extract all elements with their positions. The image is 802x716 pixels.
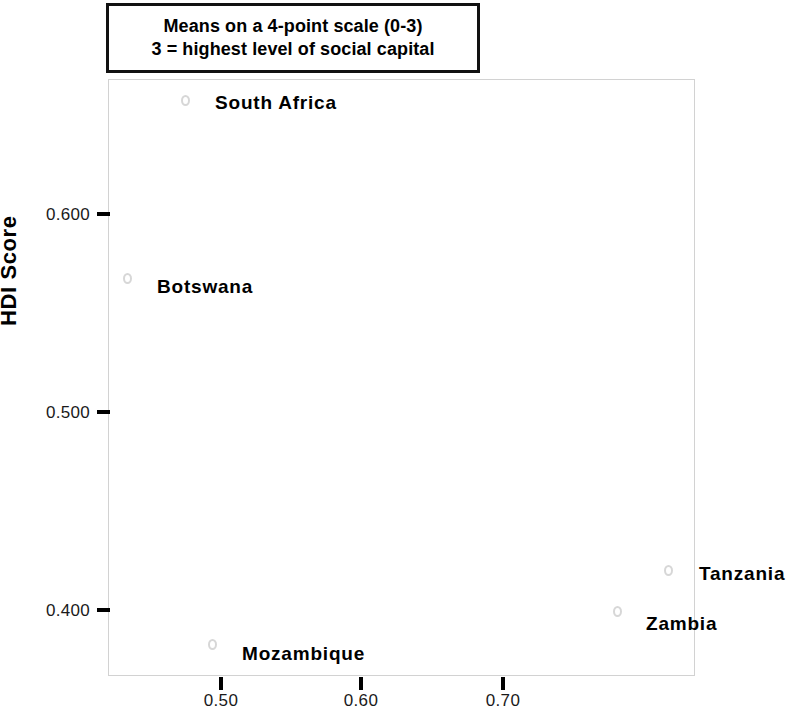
scatter-plot-figure: Means on a 4-point scale (0-3) 3 = highe…: [0, 0, 802, 716]
x-tick-label-2: 0.70: [473, 691, 533, 711]
data-label-south-africa: South Africa: [215, 92, 337, 114]
y-tick-mark-0: [97, 212, 110, 216]
caption-line-2: 3 = highest level of social capital: [151, 38, 434, 61]
y-tick-label-1: 0.500: [46, 403, 90, 423]
y-tick-mark-1: [97, 410, 110, 414]
data-point-zambia[interactable]: [613, 606, 622, 617]
x-tick-mark-0: [219, 677, 223, 690]
data-label-zambia: Zambia: [646, 613, 717, 635]
y-tick-label-0: 0.600: [46, 205, 90, 225]
y-tick-mark-2: [97, 608, 110, 612]
x-tick-mark-2: [501, 677, 505, 690]
y-axis-title: HDI Score: [0, 86, 22, 326]
x-tick-label-0: 0.50: [191, 691, 251, 711]
caption-box: Means on a 4-point scale (0-3) 3 = highe…: [106, 3, 480, 73]
data-point-botswana[interactable]: [123, 273, 132, 284]
data-label-tanzania: Tanzania: [699, 563, 785, 585]
data-label-botswana: Botswana: [157, 276, 253, 298]
plot-area: [108, 79, 695, 676]
y-tick-label-2: 0.400: [46, 601, 90, 621]
data-point-south-africa[interactable]: [181, 95, 190, 106]
data-point-mozambique[interactable]: [208, 639, 217, 650]
data-label-mozambique: Mozambique: [242, 643, 365, 665]
x-tick-label-1: 0.60: [331, 691, 391, 711]
x-tick-mark-1: [359, 677, 363, 690]
data-point-tanzania[interactable]: [664, 565, 673, 576]
caption-line-1: Means on a 4-point scale (0-3): [163, 15, 422, 38]
